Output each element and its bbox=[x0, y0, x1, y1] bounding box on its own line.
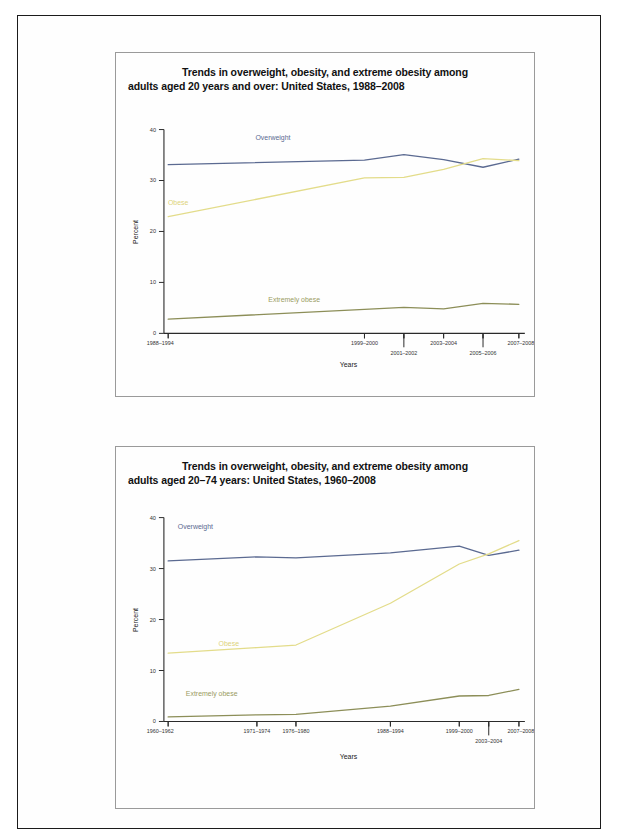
y-tick-label: 40 bbox=[150, 127, 156, 133]
x-tick-label: 1960–1962 bbox=[147, 728, 174, 734]
figure-overweight-adults-20-74: Trends in overweight, obesity, and extre… bbox=[115, 446, 535, 809]
series-line-overweight bbox=[168, 155, 519, 168]
series-label-overweight: Overweight bbox=[255, 134, 290, 142]
series-line-extremely-obese bbox=[168, 689, 519, 717]
x-tick-label: 1988–1994 bbox=[147, 340, 174, 346]
series-line-obese bbox=[168, 541, 519, 654]
x-tick-label: 2005–2006 bbox=[470, 350, 497, 356]
figure-1-title-line-1: Trends in overweight, obesity, and extre… bbox=[126, 65, 524, 79]
x-axis-title: Years bbox=[340, 361, 358, 368]
series-label-extremely-obese: Extremely obese bbox=[186, 690, 238, 698]
x-tick-label: 2001–2002 bbox=[390, 350, 417, 356]
y-tick-label: 30 bbox=[150, 177, 156, 183]
x-tick-label: 2007–2008 bbox=[508, 728, 534, 734]
figure-2-title: Trends in overweight, obesity, and extre… bbox=[126, 459, 524, 487]
y-tick-label: 30 bbox=[150, 566, 156, 572]
y-tick-label: 0 bbox=[153, 718, 156, 724]
y-tick-label: 0 bbox=[153, 330, 156, 336]
series-label-obese: Obese bbox=[168, 199, 189, 206]
figure-2-title-line-2: adults aged 20–74 years: United States, … bbox=[126, 473, 524, 487]
series-label-extremely-obese: Extremely obese bbox=[268, 296, 320, 304]
page-frame: Trends in overweight, obesity, and extre… bbox=[17, 15, 601, 829]
x-tick-label: 2003–2004 bbox=[475, 738, 502, 744]
x-tick-label: 1999–2000 bbox=[351, 340, 378, 346]
x-tick-label: 1988–1994 bbox=[377, 728, 404, 734]
figure-1-title: Trends in overweight, obesity, and extre… bbox=[126, 65, 524, 93]
series-line-obese bbox=[168, 159, 519, 217]
series-line-extremely-obese bbox=[168, 303, 519, 319]
x-tick-label: 1971–1974 bbox=[243, 728, 270, 734]
figure-2-plot: 010203040Percent1960–19621971–19741976–1… bbox=[116, 447, 534, 808]
x-tick-label: 2007–2008 bbox=[507, 340, 534, 346]
x-axis-title: Years bbox=[340, 753, 358, 760]
y-tick-label: 40 bbox=[150, 515, 156, 521]
figure-1-title-line-2: adults aged 20 years and over: United St… bbox=[126, 79, 524, 93]
figure-2-title-line-1: Trends in overweight, obesity, and extre… bbox=[126, 459, 524, 473]
x-tick-label: 2003–2004 bbox=[430, 340, 457, 346]
figure-overweight-adults-20-and-over: Trends in overweight, obesity, and extre… bbox=[115, 52, 535, 397]
series-line-overweight bbox=[168, 546, 519, 561]
y-axis-title: Percent bbox=[132, 220, 139, 244]
x-tick-label: 1999–2000 bbox=[446, 728, 473, 734]
figure-1-plot: 010203040Percent1988–19941999–20002001–2… bbox=[116, 53, 534, 396]
x-tick-label: 1976–1980 bbox=[283, 728, 310, 734]
y-tick-label: 20 bbox=[150, 228, 156, 234]
series-label-overweight: Overweight bbox=[178, 523, 213, 531]
y-tick-label: 20 bbox=[150, 617, 156, 623]
y-axis-title: Percent bbox=[132, 608, 139, 632]
y-tick-label: 10 bbox=[150, 668, 156, 674]
y-tick-label: 10 bbox=[150, 279, 156, 285]
series-label-obese: Obese bbox=[219, 640, 240, 647]
